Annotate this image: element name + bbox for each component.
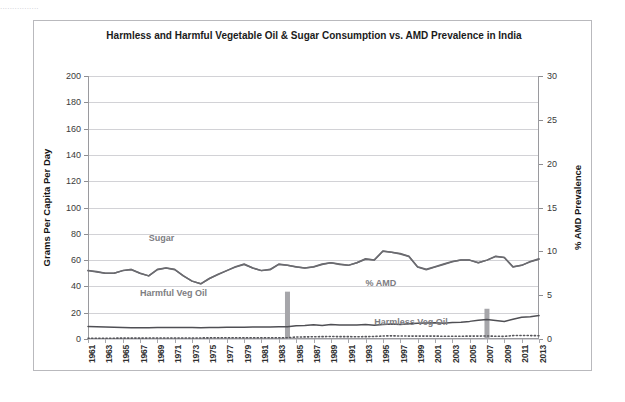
event-bar-2007: [484, 309, 489, 339]
series-line-harmless-veg-oil: [88, 335, 539, 338]
chart-frame: Harmless and Harmful Vegetable Oil & Sug…: [33, 20, 592, 371]
x-tick: [331, 339, 332, 343]
x-tick: [88, 339, 89, 343]
x-tick: [383, 339, 384, 343]
x-axis-label: 1981: [260, 345, 270, 363]
x-axis-label: 2003: [451, 345, 461, 363]
x-axis-label: 1993: [364, 345, 374, 363]
x-tick: [244, 339, 245, 343]
y-axis-title-left: Grams Per Capita Per Day: [40, 76, 54, 339]
x-axis-label: 1995: [381, 345, 391, 363]
y-tick-right: [539, 208, 543, 209]
x-axis-label: 1967: [139, 345, 149, 363]
y-axis-left-label: 100: [66, 203, 81, 213]
y-axis-right-label: 30: [547, 71, 557, 81]
x-axis-label: 2011: [520, 345, 530, 363]
x-axis-label: 1985: [295, 345, 305, 363]
x-tick: [209, 339, 210, 343]
y-axis-left-label: 20: [71, 308, 81, 318]
y-axis-left-label: 80: [71, 229, 81, 239]
x-axis-label: 1969: [156, 345, 166, 363]
chart-title: Harmless and Harmful Vegetable Oil & Sug…: [94, 29, 534, 43]
x-tick: [400, 339, 401, 343]
x-tick: [366, 339, 367, 343]
y-tick-right: [539, 120, 543, 121]
x-axis-label: 1975: [208, 345, 218, 363]
annotation-sugar: Sugar: [149, 233, 175, 243]
y-axis-left-label: 180: [66, 97, 81, 107]
y-axis-right-label: 20: [547, 159, 557, 169]
y-tick-right: [539, 295, 543, 296]
x-axis-label: 1983: [277, 345, 287, 363]
event-bar-1984: [285, 292, 290, 339]
x-axis-label: 1973: [191, 345, 201, 363]
x-tick: [140, 339, 141, 343]
x-tick: [157, 339, 158, 343]
x-tick: [470, 339, 471, 343]
x-axis-label: 1961: [87, 345, 97, 363]
x-axis-label: 1991: [347, 345, 357, 363]
x-tick: [348, 339, 349, 343]
annotation-harmless-veg-oil: Harmless Veg Oil: [374, 317, 448, 327]
x-axis-label: 2001: [433, 345, 443, 363]
y-tick-right: [539, 164, 543, 165]
series-line-harmful-veg-oil: [88, 316, 539, 328]
annotation--amd: % AMD: [366, 278, 397, 288]
y-axis-left-label: 120: [66, 176, 81, 186]
y-axis-right-label: 15: [547, 203, 557, 213]
x-axis-label: 2005: [468, 345, 478, 363]
x-axis-label: 1971: [173, 345, 183, 363]
x-tick: [296, 339, 297, 343]
x-tick: [435, 339, 436, 343]
y-axis-right-label: 5: [547, 290, 552, 300]
x-axis-label: 1997: [399, 345, 409, 363]
x-tick: [487, 339, 488, 343]
x-tick: [123, 339, 124, 343]
cropped-text-strip: ................: [0, 0, 625, 14]
x-axis-label: 2009: [503, 345, 513, 363]
y-axis-title-right-text: % AMD Prevalence: [573, 165, 584, 250]
x-tick: [504, 339, 505, 343]
x-tick: [522, 339, 523, 343]
y-axis-left-label: 60: [71, 255, 81, 265]
y-axis-left-label: 160: [66, 124, 81, 134]
y-axis-title-left-text: Grams Per Capita Per Day: [42, 149, 53, 267]
x-tick: [227, 339, 228, 343]
x-axis-label: 1979: [243, 345, 253, 363]
y-axis-left-label: 200: [66, 71, 81, 81]
x-tick: [452, 339, 453, 343]
x-axis-label: 1999: [416, 345, 426, 363]
annotation-harmful-veg-oil: Harmful Veg Oil: [140, 288, 207, 298]
x-tick: [314, 339, 315, 343]
x-axis-label: 2013: [538, 345, 548, 363]
x-tick: [105, 339, 106, 343]
y-axis-right-label: 10: [547, 246, 557, 256]
x-tick: [418, 339, 419, 343]
y-axis-left-label: 40: [71, 281, 81, 291]
x-axis-label: 1963: [104, 345, 114, 363]
screenshot-root: ................ Harmless and Harmful Ve…: [0, 0, 625, 402]
x-tick: [175, 339, 176, 343]
series-line--amd: [88, 251, 539, 283]
x-tick: [261, 339, 262, 343]
y-axis-right-label: 25: [547, 115, 557, 125]
y-axis-right-label: 0: [547, 334, 552, 344]
x-axis-label: 1987: [312, 345, 322, 363]
x-tick: [279, 339, 280, 343]
plot-area: 020406080100120140160180200 051015202530…: [88, 76, 539, 339]
y-tick-right: [539, 251, 543, 252]
x-axis-label: 1989: [329, 345, 339, 363]
y-axis-title-right: % AMD Prevalence: [571, 76, 585, 339]
y-axis-left-label: 0: [76, 334, 81, 344]
y-axis-left-label: 140: [66, 150, 81, 160]
x-tick: [539, 339, 540, 343]
x-axis-label: 1977: [225, 345, 235, 363]
y-tick-right: [539, 76, 543, 77]
x-tick: [192, 339, 193, 343]
x-axis-label: 1965: [121, 345, 131, 363]
series-layer: [88, 76, 539, 339]
x-axis-label: 2007: [485, 345, 495, 363]
